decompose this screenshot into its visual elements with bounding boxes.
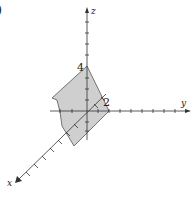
y-axis-label: y bbox=[180, 98, 187, 108]
z-axis-label: z bbox=[90, 6, 96, 16]
z-intercept-label: 4 bbox=[77, 61, 84, 74]
x-axis-label: x bbox=[7, 178, 12, 188]
y-intercept-label: 2 bbox=[103, 96, 110, 109]
shaded-plane-region bbox=[52, 66, 109, 146]
3d-plot: z y x 4 2 bbox=[0, 0, 195, 200]
z-axis-arrowhead-icon bbox=[85, 7, 89, 13]
y-axis-arrowhead-icon bbox=[185, 109, 191, 113]
